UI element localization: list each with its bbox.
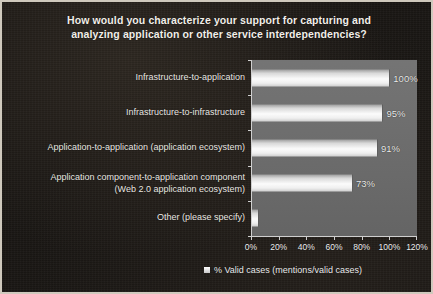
chart-title: How would you characterize your support … — [28, 13, 410, 41]
bar-value-label-0: 100% — [393, 72, 417, 83]
y-axis — [251, 60, 252, 236]
x-axis-tick — [251, 236, 252, 240]
bar-value-label-2: 91% — [381, 142, 400, 153]
x-axis-tick-label: 40% — [298, 242, 315, 252]
bar-4 — [251, 210, 259, 227]
x-axis-tick-labels: 0%20%40%60%80%100%120% — [251, 242, 417, 255]
x-axis-tick-label: 80% — [353, 242, 370, 252]
x-axis-tick — [416, 236, 417, 240]
x-axis-tick — [279, 236, 280, 240]
bar-row: 73% — [251, 166, 417, 201]
x-axis-tick-label: 60% — [325, 242, 342, 252]
bar-value-label-3: 73% — [356, 178, 375, 189]
x-axis-tick — [362, 236, 363, 240]
category-label-3: Application component-to-application com… — [12, 172, 245, 195]
x-axis-tick — [389, 236, 390, 240]
category-row: Infrastructure-to-application — [10, 60, 251, 95]
category-label-4: Other (please specify) — [12, 213, 245, 225]
y-axis-tick — [248, 201, 251, 202]
category-row: Infrastructure-to-infrastructure — [10, 95, 251, 130]
x-axis-tick-label: 20% — [270, 242, 287, 252]
bar-value-label-1: 95% — [386, 107, 405, 118]
x-axis-tick — [334, 236, 335, 240]
category-label-column: Infrastructure-to-application Infrastruc… — [10, 60, 251, 236]
x-axis-tick-label: 100% — [378, 242, 400, 252]
bar-2 — [251, 139, 378, 156]
category-label-0: Infrastructure-to-application — [12, 72, 245, 84]
legend-label: % Valid cases (mentions/valid cases) — [214, 265, 362, 275]
legend-swatch-icon — [204, 267, 210, 273]
y-axis-tick — [248, 95, 251, 96]
y-axis-tick — [248, 166, 251, 167]
bar-3 — [251, 175, 353, 192]
y-axis-tick — [248, 130, 251, 131]
y-axis-tick — [248, 60, 251, 61]
category-row: Application-to-application (application … — [10, 130, 251, 165]
bar-row — [251, 201, 417, 236]
category-row: Other (please specify) — [10, 201, 251, 236]
x-axis-tick-label: 0% — [245, 242, 257, 252]
bar-row: 91% — [251, 130, 417, 165]
plot-wrapper: Infrastructure-to-application Infrastruc… — [10, 60, 427, 236]
category-label-1: Infrastructure-to-infrastructure — [12, 107, 245, 119]
x-axis-tick-label: 120% — [406, 242, 428, 252]
plot-area: 100% 95% 91% 73% — [251, 60, 417, 236]
bar-row: 100% — [251, 60, 417, 95]
chart-title-line-2: analyzing application or other service i… — [28, 27, 410, 41]
chart-container: How would you characterize your support … — [0, 0, 433, 294]
chart-title-line-1: How would you characterize your support … — [28, 13, 410, 27]
chart-legend: % Valid cases (mentions/valid cases) — [204, 265, 362, 275]
bar-1 — [251, 104, 383, 121]
category-row: Application component-to-application com… — [10, 166, 251, 201]
bar-row: 95% — [251, 95, 417, 130]
bar-0 — [251, 69, 390, 86]
x-axis-tick — [306, 236, 307, 240]
category-label-2: Application-to-application (application … — [12, 142, 245, 154]
